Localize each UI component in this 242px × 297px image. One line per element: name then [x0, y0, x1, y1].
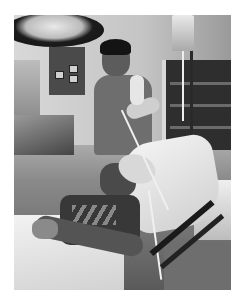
background-bed	[14, 115, 74, 155]
cabinet-shelf	[170, 126, 231, 129]
outlet	[69, 65, 78, 73]
cabinet-shelf	[170, 82, 231, 85]
resuscitation-bag	[130, 75, 144, 105]
iv-tube	[182, 51, 184, 121]
hospital-photo	[14, 15, 231, 290]
iv-bag	[172, 15, 194, 51]
cabinet-shelf	[170, 104, 231, 107]
patient-hand	[32, 219, 58, 239]
outlet	[69, 75, 78, 83]
outlet	[55, 71, 64, 79]
doctor-hair	[100, 39, 131, 55]
wall-panel	[49, 47, 85, 95]
